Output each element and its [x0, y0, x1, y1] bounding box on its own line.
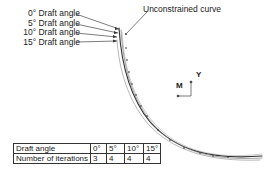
iterations-table: Draft angle 0° 5° 10° 15° Number of iter…	[13, 143, 161, 164]
table-cell: 15°	[144, 144, 161, 154]
table-cell: 5°	[107, 144, 125, 154]
curves	[117, 28, 262, 160]
table-row: Draft angle 0° 5° 10° 15°	[14, 144, 161, 154]
unconstrained-curve-label: Unconstrained curve	[143, 4, 221, 14]
label-15-draft: 15° Draft angle	[0, 38, 80, 48]
axis-label-y: Y	[196, 70, 201, 79]
table-row: Number of iterations 3 4 4 4	[14, 154, 161, 164]
table-cell: 0°	[91, 144, 107, 154]
table-cell: 3	[91, 154, 107, 164]
table-cell: Draft angle	[14, 144, 91, 154]
leader-lines	[76, 12, 147, 42]
axis-label-m: M	[176, 81, 183, 90]
draft-angle-labels: 0° Draft angle 5° Draft angle 10° Draft …	[0, 9, 80, 47]
table-cell: 10°	[125, 144, 144, 154]
table-cell: Number of iterations	[14, 154, 91, 164]
table-cell: 4	[107, 154, 125, 164]
table-cell: 4	[144, 154, 161, 164]
table-cell: 4	[125, 154, 144, 164]
